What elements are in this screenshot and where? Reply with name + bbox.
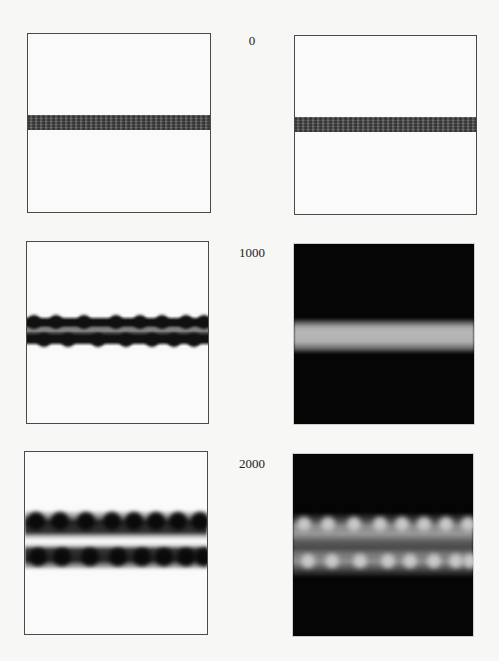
blob [427,554,441,568]
blob [155,548,173,566]
time-label-0: 0 [227,33,277,49]
blob [109,548,127,566]
blob [417,517,431,531]
bright-band [294,318,474,354]
blob [27,315,41,329]
blob [77,512,95,530]
blob [325,554,339,568]
blob [91,333,105,347]
blob [49,315,63,329]
panel-row2-left [26,241,209,424]
blob [29,548,47,566]
blob [147,512,165,530]
blob [403,554,417,568]
blob [195,548,208,566]
blob [155,315,169,329]
blob [449,554,463,568]
blob [169,512,187,530]
blob [177,548,195,566]
blob [439,517,453,531]
time-label-2000: 2000 [227,456,277,472]
speckled-band [295,117,476,132]
blob [119,333,133,347]
blob [187,333,201,347]
blob [109,315,123,329]
blob [61,333,75,347]
blob [51,512,69,530]
blob [321,517,335,531]
panel-row2-right [293,243,475,425]
panel-row1-left [27,33,211,213]
blob [37,333,51,347]
blob [353,554,367,568]
blob [133,548,151,566]
blob [133,315,147,329]
blob [125,512,143,530]
blob [395,517,409,531]
panel-row3-left [24,451,208,635]
blob [301,554,315,568]
blob [27,512,45,530]
panel-row3-right [292,453,474,637]
blob [347,517,361,531]
blob [81,548,99,566]
blob [77,315,91,329]
blob [53,548,71,566]
blob [145,333,159,347]
blob [461,517,474,531]
panel-row1-right [294,35,477,215]
time-label-1000: 1000 [227,245,277,261]
blob [103,512,121,530]
blob [197,315,209,329]
blob [373,517,387,531]
blob [297,517,311,531]
blob [179,315,193,329]
blob [167,333,181,347]
blob [191,512,208,530]
blob [381,554,395,568]
speckled-band [28,115,210,130]
blob [463,554,474,568]
